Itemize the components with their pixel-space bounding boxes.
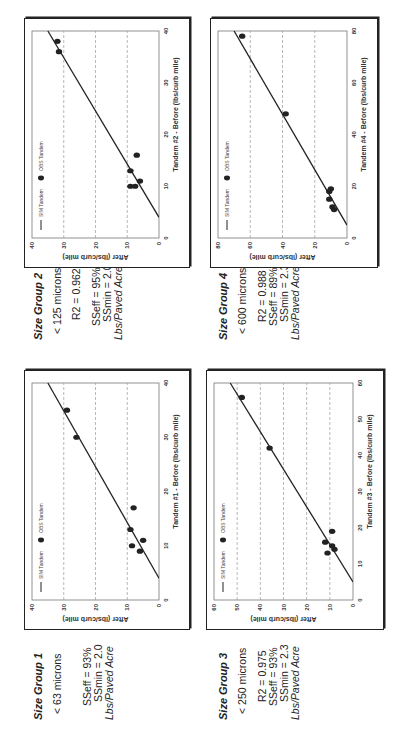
y-tick-label: 30 bbox=[61, 603, 67, 610]
x-tick-label: 10 bbox=[357, 560, 363, 567]
chart-svg: 010203040010203040Tandem #1 - Before (lb… bbox=[25, 371, 189, 629]
group-size: < 63 microns bbox=[52, 630, 63, 720]
x-tick-label: 20 bbox=[357, 524, 363, 531]
y-axis-label: After (lbs/curb mile) bbox=[62, 253, 128, 261]
x-tick-label: 40 bbox=[163, 379, 169, 386]
y-tick-label: 20 bbox=[304, 603, 310, 610]
x-axis-label: Tandem #2 - Before (lbs/curb mile) bbox=[172, 57, 180, 171]
legend-dot-icon bbox=[38, 538, 44, 543]
obs-tandem-point bbox=[266, 446, 272, 451]
y-tick-label: 0 bbox=[156, 241, 162, 245]
x-tick-label: 50 bbox=[357, 415, 363, 422]
group-title: Size Group 3 bbox=[218, 630, 229, 720]
obs-tandem-point bbox=[329, 543, 335, 548]
obs-tandem-point bbox=[54, 39, 60, 44]
legend-dot-icon bbox=[38, 176, 44, 181]
obs-tandem-point bbox=[328, 186, 334, 191]
y-tick-label: 20 bbox=[312, 241, 318, 248]
x-tick-label: 10 bbox=[163, 182, 169, 189]
x-tick-label: 40 bbox=[357, 451, 363, 458]
group-title: Size Group 1 bbox=[33, 630, 44, 720]
y-axis-label: After (lbs/curb mile) bbox=[62, 615, 128, 623]
x-tick-label: 40 bbox=[351, 131, 357, 138]
legend-label-obs: OBS Tandem bbox=[224, 141, 230, 171]
y-axis-label: After (lbs/curb mile) bbox=[249, 253, 315, 261]
obs-tandem-point bbox=[140, 538, 146, 543]
y-tick-label: 40 bbox=[257, 603, 263, 610]
obs-tandem-point bbox=[132, 184, 138, 189]
obs-tandem-point bbox=[127, 168, 133, 173]
x-tick-label: 80 bbox=[351, 27, 357, 34]
y-tick-label: 10 bbox=[327, 603, 333, 610]
rotated-page: Size Group 1 < 63 microns SSeff = 93% SS… bbox=[0, 0, 394, 732]
y-tick-label: 60 bbox=[211, 603, 217, 610]
y-tick-label: 20 bbox=[93, 603, 99, 610]
legend-dot-icon bbox=[224, 176, 230, 181]
legend-label-sim: SIM Tandem bbox=[38, 189, 44, 217]
obs-tandem-point bbox=[129, 543, 135, 548]
obs-tandem-point bbox=[127, 527, 133, 532]
obs-tandem-point bbox=[326, 197, 332, 202]
chart-svg: 020406080020406080Tandem #4 - Before (lb… bbox=[211, 19, 377, 267]
obs-tandem-point bbox=[329, 529, 335, 534]
chart-svg: 010203040010203040Tandem #2 - Before (lb… bbox=[25, 19, 189, 267]
y-tick-label: 0 bbox=[344, 241, 350, 245]
x-tick-label: 0 bbox=[357, 598, 363, 602]
x-axis-label: Tandem #4 - Before (lbs/curb mile) bbox=[360, 57, 368, 171]
legend-label-sim: SIM Tandem bbox=[38, 551, 44, 579]
y-tick-label: 10 bbox=[124, 241, 130, 248]
x-axis-label: Tandem #1 - Before (lbs/curb mile) bbox=[172, 414, 180, 528]
legend-label-obs: OBS Tandem bbox=[38, 503, 44, 533]
x-tick-label: 40 bbox=[163, 27, 169, 34]
x-tick-label: 20 bbox=[163, 488, 169, 495]
chart-group-4: 020406080020406080Tandem #4 - Before (lb… bbox=[210, 18, 378, 268]
x-tick-label: 30 bbox=[163, 433, 169, 440]
obs-tandem-point bbox=[134, 153, 140, 158]
y-tick-label: 50 bbox=[234, 603, 240, 610]
y-tick-label: 60 bbox=[247, 241, 253, 248]
obs-tandem-point bbox=[73, 435, 79, 440]
x-tick-label: 20 bbox=[351, 182, 357, 189]
x-tick-label: 60 bbox=[351, 79, 357, 86]
chart-svg: 01020304050600102030405060Tandem #3 - Be… bbox=[207, 371, 383, 629]
obs-tandem-point bbox=[322, 540, 328, 545]
y-tick-label: 0 bbox=[156, 603, 162, 607]
group-size: < 250 microns bbox=[237, 630, 248, 720]
y-tick-label: 80 bbox=[215, 241, 221, 248]
legend-label-obs: OBS Tandem bbox=[220, 503, 226, 533]
legend-dot-icon bbox=[220, 538, 226, 543]
obs-tandem-point bbox=[283, 111, 289, 116]
x-tick-label: 30 bbox=[163, 79, 169, 86]
y-tick-label: 30 bbox=[61, 241, 67, 248]
x-tick-label: 0 bbox=[163, 236, 169, 240]
y-tick-label: 20 bbox=[93, 241, 99, 248]
y-tick-label: 30 bbox=[281, 603, 287, 610]
group-1-info: Size Group 1 < 63 microns SSeff = 93% SS… bbox=[33, 630, 115, 720]
y-tick-label: 40 bbox=[280, 241, 286, 248]
legend-label-obs: OBS Tandem bbox=[38, 141, 44, 171]
obs-tandem-point bbox=[137, 549, 143, 554]
x-tick-label: 30 bbox=[357, 488, 363, 495]
legend-label-sim: SIM Tandem bbox=[220, 551, 226, 579]
y-tick-label: 40 bbox=[29, 241, 35, 248]
y-tick-label: 40 bbox=[29, 603, 35, 610]
obs-tandem-point bbox=[130, 505, 136, 510]
obs-tandem-point bbox=[137, 178, 143, 183]
chart-group-1: 010203040010203040Tandem #1 - Before (lb… bbox=[24, 370, 190, 630]
y-axis-label: After (lbs/curb mile) bbox=[250, 615, 316, 623]
x-tick-label: 60 bbox=[357, 379, 363, 386]
chart-group-3: 01020304050600102030405060Tandem #3 - Be… bbox=[206, 370, 384, 630]
x-tick-label: 0 bbox=[351, 236, 357, 240]
y-tick-label: 0 bbox=[350, 603, 356, 607]
obs-tandem-point bbox=[239, 34, 245, 39]
obs-tandem-point bbox=[56, 49, 62, 54]
y-tick-label: 10 bbox=[124, 603, 130, 610]
chart-group-2: 010203040010203040Tandem #2 - Before (lb… bbox=[24, 18, 190, 268]
x-tick-label: 10 bbox=[163, 542, 169, 549]
obs-tandem-point bbox=[324, 550, 330, 555]
group-units: Lbs/Paved Acre bbox=[104, 630, 115, 720]
x-tick-label: 20 bbox=[163, 131, 169, 138]
group-units: Lbs/Paved Acre bbox=[290, 630, 301, 720]
group-3-info: Size Group 3 < 250 microns R2 = 0.975 SS… bbox=[218, 630, 301, 720]
obs-tandem-point bbox=[64, 408, 70, 413]
